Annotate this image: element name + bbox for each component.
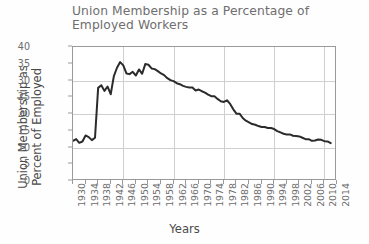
x-axis-tick-mark [135, 180, 136, 184]
x-axis-tick-mark [273, 180, 274, 184]
x-axis-label: Years [0, 222, 369, 236]
x-axis-tick-mark [173, 180, 174, 184]
x-axis-tick-label: 1978 [227, 183, 238, 207]
x-axis-tick-mark [248, 180, 249, 184]
union-membership-chart: Union Membership as a Percentage of Empl… [0, 0, 369, 244]
x-axis-tick-label: 1986 [252, 183, 263, 207]
x-axis-tick-label: 1974 [214, 183, 225, 207]
x-axis-tick-label: 1998 [290, 183, 301, 207]
x-axis-tick-mark [223, 180, 224, 184]
x-axis-tick-mark [311, 180, 312, 184]
y-axis-tick-label: 5 [4, 158, 30, 169]
x-axis-tick-mark [235, 180, 236, 184]
series-polyline [73, 62, 331, 143]
x-axis-tick-label: 1930 [76, 183, 87, 207]
x-axis-tick-mark [72, 180, 73, 184]
x-axis-tick-label: 1954 [151, 183, 162, 207]
x-axis-tick-label: 1946 [126, 183, 137, 207]
x-axis-tick-label: 1950 [139, 183, 150, 207]
x-axis-tick-mark [286, 180, 287, 184]
y-axis-tick-label: 40 [4, 41, 30, 52]
x-axis-tick-mark [198, 180, 199, 184]
plot-area [72, 46, 336, 180]
x-axis-tick-label: 1990 [265, 183, 276, 207]
y-axis-tick-label: 15 [4, 124, 30, 135]
x-axis-tick-label: 1966 [189, 183, 200, 207]
x-axis-tick-mark [210, 180, 211, 184]
y-axis-tick-label: 0 [4, 175, 30, 186]
x-axis-tick-label: 1962 [177, 183, 188, 207]
x-axis-tick-label: 1934 [89, 183, 100, 207]
x-axis-tick-mark [323, 180, 324, 184]
x-axis-tick-label: 1994 [277, 183, 288, 207]
x-axis-tick-mark [336, 180, 337, 184]
x-axis-tick-label: 2006 [315, 183, 326, 207]
x-axis-tick-mark [147, 180, 148, 184]
x-axis-tick-mark [97, 180, 98, 184]
x-axis-tick-mark [298, 180, 299, 184]
y-axis-tick-label: 20 [4, 108, 30, 119]
x-axis-tick-label: 1982 [239, 183, 250, 207]
x-axis-tick-label: 1970 [202, 183, 213, 207]
x-axis-tick-mark [160, 180, 161, 184]
x-axis-tick-label: 2014 [340, 183, 351, 207]
x-axis-tick-label: 1958 [164, 183, 175, 207]
x-axis-tick-label: 2002 [302, 183, 313, 207]
x-axis-tick-label: 1938 [101, 183, 112, 207]
y-axis-tick-label: 35 [4, 57, 30, 68]
x-axis-tick-label: 1942 [114, 183, 125, 207]
y-axis-tick-label: 10 [4, 141, 30, 152]
x-axis-tick-mark [110, 180, 111, 184]
chart-title: Union Membership as a Percentage of Empl… [72, 5, 362, 32]
x-axis-tick-label: 2010 [327, 183, 338, 207]
y-axis-tick-label: 25 [4, 91, 30, 102]
x-axis-tick-mark [122, 180, 123, 184]
y-axis-tick-label: 30 [4, 74, 30, 85]
x-axis-tick-mark [85, 180, 86, 184]
data-series-line [73, 47, 336, 180]
x-axis-tick-mark [185, 180, 186, 184]
x-axis-tick-mark [261, 180, 262, 184]
